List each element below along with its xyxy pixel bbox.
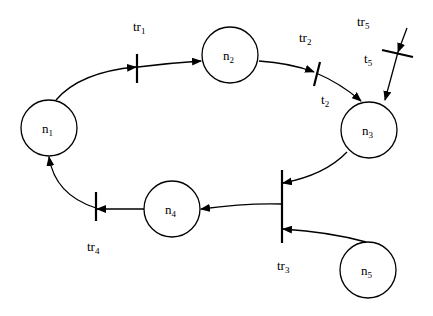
transition-label-tr4: tr4 bbox=[87, 239, 100, 256]
edge-n5-tr3 bbox=[283, 229, 366, 242]
label-t2: t2 bbox=[321, 92, 329, 109]
transition-label-tr5: tr5 bbox=[357, 14, 370, 31]
transition-label-tr2: tr2 bbox=[299, 30, 311, 47]
label-t5: t5 bbox=[364, 51, 373, 68]
transition-label-tr1: tr1 bbox=[133, 19, 145, 36]
edge-tr5-n3 bbox=[398, 28, 407, 52]
edge-tr5-n3-b bbox=[385, 52, 398, 100]
edge-n2-tr2 bbox=[259, 61, 314, 72]
transition-label-tr3: tr3 bbox=[277, 258, 290, 275]
edge-tr1-n2 bbox=[138, 61, 201, 67]
edge-tr4-n1 bbox=[49, 157, 96, 208]
petri-net-diagram: n1 n2 n3 n4 n5 tr1 tr2 tr3 tr4 tr5 t2 t5 bbox=[0, 0, 433, 316]
edge-tr3-n4 bbox=[201, 204, 282, 209]
edge-n3-tr3 bbox=[283, 152, 347, 183]
edge-n1-tr1 bbox=[56, 67, 136, 100]
